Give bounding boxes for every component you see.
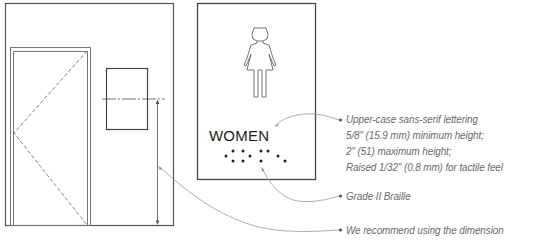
- braille-dot: [267, 150, 270, 153]
- callout-lettering: Upper-case sans-serif lettering 5/8" (15…: [346, 111, 503, 175]
- callout-braille: Grade II Braille: [346, 188, 411, 204]
- arrow-down-icon: [156, 221, 160, 226]
- woman-figure-icon: [244, 28, 276, 97]
- callout-dimension: We recommend using the dimension: [346, 222, 504, 238]
- braille-dot: [284, 160, 287, 163]
- callout-dimension-line-1: We recommend using the dimension: [346, 222, 504, 238]
- callout-bullets: [339, 118, 342, 231]
- callout-lettering-line-2: 5/8" (15.9 mm) minimum height;: [346, 127, 503, 143]
- sign-panel: [198, 4, 316, 180]
- callout-lettering-line-4: Raised 1/32" (0.8 mm) for tactile feel: [346, 159, 503, 175]
- sign-detail: WOMEN: [198, 4, 316, 180]
- braille-dot: [260, 160, 263, 163]
- leader-dimension: [160, 167, 339, 231]
- callout-lettering-line-3: 2" (51) maximum height;: [346, 143, 503, 159]
- braille-dot: [242, 160, 245, 163]
- callout-lettering-line-1: Upper-case sans-serif lettering: [346, 111, 503, 127]
- door-frame-outer: [11, 48, 91, 226]
- door-swing-lines: [14, 51, 87, 225]
- braille-dot: [242, 150, 245, 153]
- leader-lettering: [275, 114, 339, 126]
- braille-dot: [225, 155, 228, 158]
- arrow-up-icon: [156, 100, 160, 105]
- braille-dot: [249, 155, 252, 158]
- braille-dot: [232, 160, 235, 163]
- door-frame-inner: [14, 52, 88, 226]
- braille-dots: [225, 150, 287, 163]
- wall-elevation: [6, 4, 174, 226]
- braille-dot: [232, 150, 235, 153]
- braille-dot: [260, 150, 263, 153]
- sign-label: WOMEN: [209, 127, 269, 144]
- arrow-lettering-icon: [274, 124, 279, 128]
- callout-braille-line-1: Grade II Braille: [346, 188, 411, 204]
- leader-braille: [262, 168, 339, 202]
- arrow-dimension-icon: [158, 166, 162, 171]
- braille-dot: [277, 155, 280, 158]
